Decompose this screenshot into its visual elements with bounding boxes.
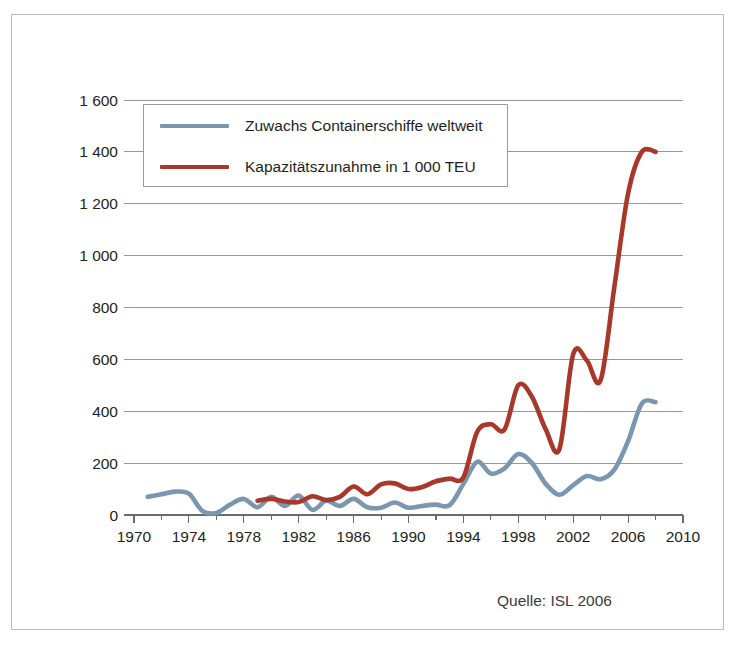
legend-label-0: Zuwachs Containerschiffe weltweit (245, 117, 483, 135)
line-chart-svg: 02004006008001 0001 2001 4001 600 197019… (0, 0, 740, 648)
x-tick-label: 1994 (446, 528, 481, 545)
chart-figure: 02004006008001 0001 2001 4001 600 197019… (0, 0, 740, 648)
x-tick-label: 1974 (172, 528, 207, 545)
legend-entry-0: Zuwachs Containerschiffe weltweit (144, 105, 507, 146)
plot-area: 02004006008001 0001 2001 4001 600 197019… (0, 0, 740, 648)
series-line-blue (148, 400, 656, 513)
series-line-red (258, 149, 656, 503)
legend-entry-1: Kapazitätszunahme in 1 000 TEU (144, 146, 507, 187)
x-tick-label: 2006 (611, 528, 645, 545)
legend-swatch-red-line-icon (160, 165, 229, 169)
x-tick-label: 1990 (391, 528, 426, 545)
legend-swatch-blue-line-icon (160, 124, 229, 128)
x-tick-label: 1978 (227, 528, 261, 545)
x-axis-labels-group: 1970197419781982198619901994199820022006… (117, 528, 701, 545)
chart-legend: Zuwachs Containerschiffe weltweit Kapazi… (143, 104, 508, 187)
x-axis-group (134, 515, 683, 523)
y-tick-label: 0 (109, 507, 118, 524)
y-tick-label: 1 600 (79, 92, 118, 109)
y-axis-labels-group: 02004006008001 0001 2001 4001 600 (79, 92, 118, 524)
y-tick-label: 200 (92, 455, 118, 472)
y-tick-label: 1 200 (79, 195, 118, 212)
x-tick-label: 1982 (281, 528, 315, 545)
x-tick-label: 1986 (336, 528, 370, 545)
y-tick-label: 1 000 (79, 247, 118, 264)
source-note: Quelle: ISL 2006 (497, 592, 612, 610)
y-tick-label: 800 (92, 299, 118, 316)
legend-label-1: Kapazitätszunahme in 1 000 TEU (245, 158, 476, 176)
y-tick-label: 400 (92, 403, 118, 420)
x-tick-label: 2010 (666, 528, 701, 545)
y-tick-label: 600 (92, 351, 118, 368)
x-tick-label: 1998 (501, 528, 535, 545)
x-tick-label: 2002 (556, 528, 590, 545)
y-tick-label: 1 400 (79, 143, 118, 160)
x-tick-label: 1970 (117, 528, 152, 545)
